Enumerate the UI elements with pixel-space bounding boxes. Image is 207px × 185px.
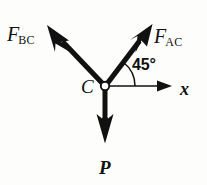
x-axis-arrowhead [157, 81, 172, 92]
force-label-fac: FAC [154, 26, 183, 48]
joint-label-c: C [81, 77, 94, 96]
force-label-p: P [99, 158, 111, 177]
free-body-diagram: FBC FAC C 45° x P [0, 0, 207, 185]
p-arrowhead [97, 109, 114, 144]
angle-label-45deg: 45° [132, 57, 156, 73]
force-vector-fbc [47, 25, 104, 85]
force-label-fbc: FBC [7, 24, 35, 46]
force-label-fac-subscript: AC [165, 35, 182, 49]
force-label-fbc-subscript: BC [18, 33, 35, 47]
joint-node-circle [101, 82, 109, 90]
force-vector-p [97, 88, 114, 144]
force-vector-fac [107, 24, 153, 85]
x-axis-label: x [180, 80, 189, 98]
